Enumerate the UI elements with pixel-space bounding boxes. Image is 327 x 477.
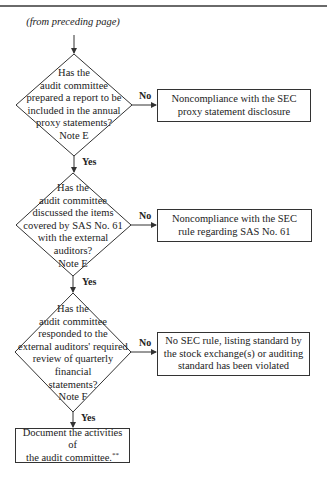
text-line: with the external	[22, 232, 124, 245]
text-line: discussed the items	[22, 207, 124, 220]
decision-1-text: Has the audit committee prepared a repor…	[22, 67, 126, 143]
text-line: Note E	[22, 258, 124, 271]
text-line: included in the annual	[22, 105, 126, 118]
text-line: Noncompliance with the SEC	[172, 213, 297, 226]
outcome-box-3: No SEC rule, listing standard by the sto…	[157, 332, 310, 376]
text-line: Has the	[22, 67, 126, 80]
yes-label-3: Yes	[81, 412, 95, 423]
text-line: covered by SAS No. 61	[22, 220, 124, 233]
text-line: rule regarding SAS No. 61	[172, 226, 297, 239]
text-line: review of quarterly	[14, 353, 132, 366]
no-label-2: No	[139, 210, 151, 221]
text-line: Document the activities of	[20, 427, 125, 452]
text-line: statements?	[14, 379, 132, 392]
no-label-3: No	[139, 337, 151, 348]
text-line: audit committee	[14, 316, 132, 329]
text-line: Has the	[14, 303, 132, 316]
text-line: Note F	[14, 391, 132, 404]
outcome-box-1: Noncompliance with the SEC proxy stateme…	[157, 89, 311, 122]
text-line: proxy statements?	[22, 117, 126, 130]
decision-2-text: Has the audit committee discussed the it…	[22, 182, 124, 270]
text-line: responded to the	[14, 328, 132, 341]
outcome-box-2: Noncompliance with the SEC rule regardin…	[157, 209, 312, 242]
text-line: standard has been violated	[164, 360, 303, 373]
yes-label-1: Yes	[82, 156, 96, 167]
final-step-box: Document the activities of the audit com…	[15, 428, 130, 463]
footnote-marker: **	[112, 450, 119, 458]
text-line: prepared a report to be	[22, 92, 126, 105]
text-line: No SEC rule, listing standard by	[164, 335, 303, 348]
text-line: the audit committee.	[26, 452, 112, 463]
yes-label-2: Yes	[82, 276, 96, 287]
text-line: Has the	[22, 182, 124, 195]
text-line: audit committee	[22, 195, 124, 208]
text-line: Note E	[22, 130, 126, 143]
text-line: external auditors' required	[14, 341, 132, 354]
text-line: the stock exchange(s) or auditing	[164, 348, 303, 361]
text-line: audit committee	[22, 80, 126, 93]
text-line: proxy statement disclosure	[171, 106, 296, 119]
decision-3-text: Has the audit committee responded to the…	[14, 303, 132, 404]
text-line: auditors?	[22, 245, 124, 258]
text-line: Noncompliance with the SEC	[171, 93, 296, 106]
no-label-1: No	[139, 90, 151, 101]
text-line: financial	[14, 366, 132, 379]
